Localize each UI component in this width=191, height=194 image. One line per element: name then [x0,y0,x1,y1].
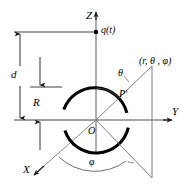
radius-R-label: R [33,97,40,108]
marker-points [94,30,98,34]
projection-line-xy [96,120,152,178]
y-axis-label: Y [172,106,178,117]
projected-point-label: Pʹ [119,89,127,99]
charge-point-dot [94,30,98,34]
theta-angle-label: θ [118,68,123,78]
charge-label: q(t) [101,25,115,35]
x-axis-label: X [23,164,30,175]
figure-canvas: Z Y X q(t) d R θ φ Pʹ (r, θ , φ) O [0,0,191,194]
phi-angle-label: φ [89,157,95,167]
x-axis-line [36,120,96,173]
distance-d-label: d [11,69,17,80]
construction-lines [96,66,152,178]
axes [34,12,172,175]
theta-label-leader [124,76,129,82]
origin-label: O [88,126,95,136]
x-axis-arrow [34,166,44,175]
z-axis-label: Z [86,10,92,21]
phi-label-leader [128,162,134,163]
dimension-extension-lines [14,32,96,120]
spherical-coordinates-label: (r, θ , φ) [139,56,171,66]
